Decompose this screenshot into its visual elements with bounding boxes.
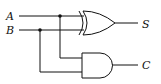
junction-dot-b [38, 28, 42, 32]
output-label-c: C [142, 59, 151, 72]
xor-gate [79, 11, 115, 35]
output-label-s: S [142, 18, 150, 31]
input-label-b: B [5, 24, 14, 37]
half-adder-diagram: A B S C [0, 0, 161, 84]
input-label-a: A [5, 10, 14, 23]
wire-a-to-and [60, 16, 82, 58]
wire-b-to-and [40, 30, 82, 72]
junction-dot-a [58, 14, 62, 18]
and-gate [82, 53, 113, 78]
